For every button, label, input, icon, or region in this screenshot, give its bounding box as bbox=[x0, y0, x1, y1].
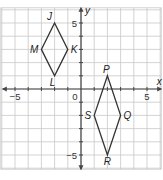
y-tick-label: 5 bbox=[72, 18, 77, 29]
y-tick-label: −5 bbox=[66, 150, 77, 161]
vertex-label-q: Q bbox=[124, 110, 132, 121]
x-axis-label: x bbox=[156, 76, 163, 87]
axes bbox=[2, 7, 162, 170]
x-tick-label: 0 bbox=[72, 91, 77, 102]
vertex-label-l: L bbox=[50, 77, 56, 88]
vertex-label-j: J bbox=[46, 11, 53, 22]
labels: −5055−5xyJKLMPQRS bbox=[10, 5, 163, 167]
x-tick-label: 5 bbox=[144, 91, 149, 102]
vertex-label-p: P bbox=[103, 64, 110, 75]
vertex-label-k: K bbox=[71, 44, 79, 55]
y-axis-label: y bbox=[84, 5, 91, 16]
arrow-left-icon bbox=[2, 87, 7, 92]
x-tick-label: −5 bbox=[10, 91, 21, 102]
vertex-label-s: S bbox=[85, 110, 92, 121]
coordinate-grid: −5055−5xyJKLMPQRS bbox=[0, 0, 163, 180]
vertex-label-m: M bbox=[30, 44, 39, 55]
vertex-label-r: R bbox=[104, 156, 111, 167]
